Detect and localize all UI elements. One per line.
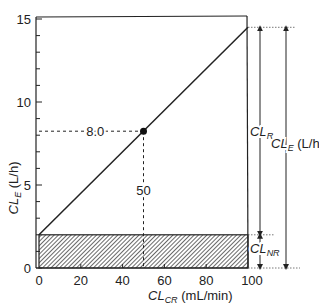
x-tick-label: 60 <box>157 273 171 288</box>
cl-nr-label: CLNR <box>250 241 280 258</box>
y-tick-label: 0 <box>24 261 31 276</box>
y-axis-title: CLE (L/h) <box>6 162 23 215</box>
plot-top-border <box>36 16 247 17</box>
highlight-point <box>140 128 147 135</box>
cl-e-label: CLE (L/h) <box>271 136 319 153</box>
x-tick-label: 0 <box>35 273 42 288</box>
x-tick-label: 100 <box>241 273 263 288</box>
x-axis-title: CLCR (mL/min) <box>148 288 233 305</box>
y-tick-label: 5 <box>24 178 31 193</box>
chart-marks <box>36 16 300 268</box>
point-x-value-label: 50 <box>136 183 150 198</box>
y-tick-label: 15 <box>17 12 31 27</box>
point-y-value-label: 8.0 <box>86 124 104 139</box>
y-tick-label: 10 <box>17 95 31 110</box>
chart: 0510150204060801008.050CLRCLE (L/h)CLNRC… <box>0 0 319 307</box>
x-tick-label: 20 <box>74 273 88 288</box>
x-tick-label: 80 <box>199 273 213 288</box>
plot-right-border <box>247 16 248 268</box>
x-tick-label: 40 <box>115 273 129 288</box>
